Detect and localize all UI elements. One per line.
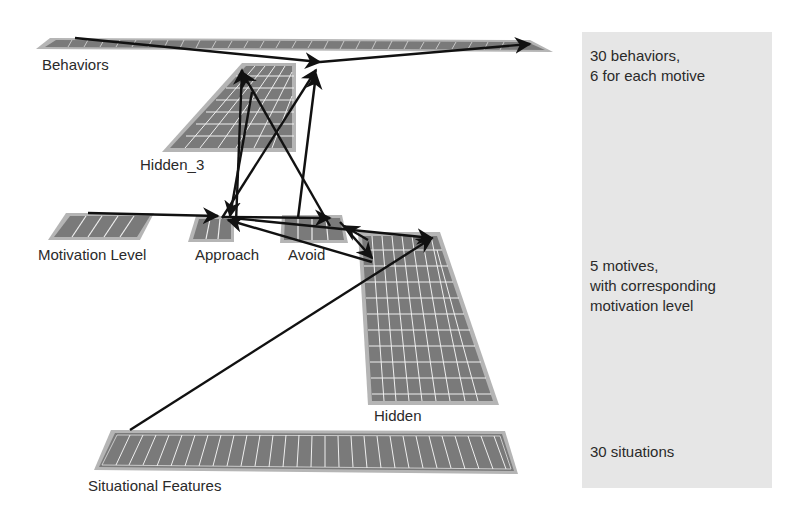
hidden-3-layer (162, 63, 298, 152)
approach-layer (188, 216, 234, 242)
behaviors-layer (36, 38, 553, 52)
label-hidden-3: Hidden_3 (140, 156, 204, 173)
note-behaviors-line1: 30 behaviors, (590, 46, 705, 66)
motivation-level-layer (48, 213, 154, 240)
situational-features-layer (94, 430, 518, 474)
note-motives-line3: motivation level (590, 296, 716, 316)
label-approach: Approach (195, 246, 259, 263)
note-behaviors: 30 behaviors, 6 for each motive (590, 46, 705, 86)
note-motives: 5 motives, with corresponding motivation… (590, 256, 716, 316)
hidden-layer (358, 232, 499, 405)
note-motives-line1: 5 motives, (590, 256, 716, 276)
label-hidden: Hidden (374, 407, 422, 424)
note-behaviors-line2: 6 for each motive (590, 66, 705, 86)
label-situational-features: Situational Features (88, 477, 221, 494)
note-motives-line2: with corresponding (590, 276, 716, 296)
label-motivation-level: Motivation Level (38, 246, 146, 263)
label-avoid: Avoid (288, 246, 325, 263)
annotation-panel: 30 behaviors, 6 for each motive 5 motive… (582, 32, 772, 488)
note-situations: 30 situations (590, 442, 674, 462)
label-behaviors: Behaviors (42, 56, 109, 73)
